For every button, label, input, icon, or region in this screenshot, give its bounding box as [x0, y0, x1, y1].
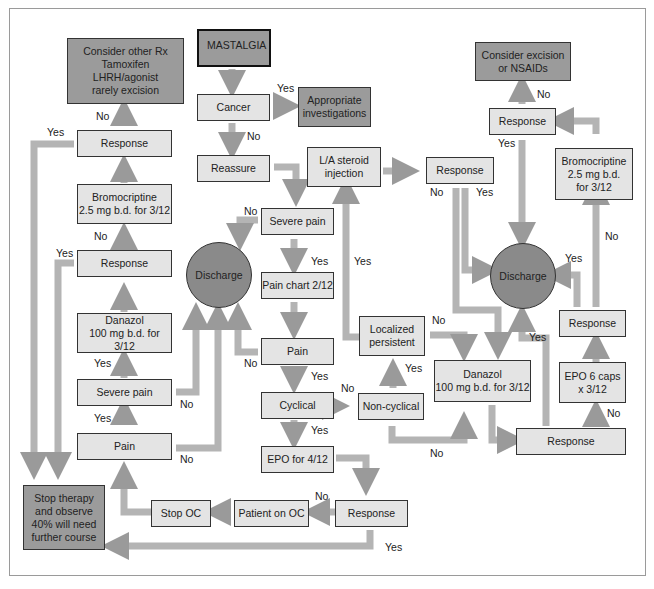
node-reassure: Reassure [197, 155, 270, 182]
label-steroid-yes: Yes [476, 186, 493, 198]
label-right-upper-no: No [537, 88, 550, 100]
label-left-response-yes: Yes [56, 247, 73, 259]
node-patient-on-oc: Patient on OC [234, 500, 309, 527]
node-response-right-mid: Response [559, 310, 626, 337]
label-right-lower-yes: Yes [529, 331, 546, 343]
node-mastalgia: MASTALGIA [197, 29, 271, 67]
label-noncyclical-yes: Yes [405, 362, 422, 374]
node-pain-left: Pain [77, 433, 172, 460]
label-left-upper-yes: Yes [47, 126, 64, 138]
label-severe-center-no: No [244, 205, 257, 217]
node-epo-6-caps: EPO 6 caps x 3/12 [559, 362, 626, 403]
node-cancer: Cancer [197, 94, 270, 121]
node-localized-persistent: Localized persistent [359, 316, 425, 356]
node-pain-chart: Pain chart 2/12 [261, 272, 334, 299]
node-stop-therapy: Stop therapy and observe 40% will need f… [23, 485, 105, 550]
label-left-response-no: No [94, 230, 107, 242]
label-noncyclical-no: No [430, 447, 443, 459]
label-left-upper-no: No [96, 110, 109, 122]
node-consider-other-rx: Consider other Rx Tamoxifen LHRH/agonist… [67, 38, 184, 104]
label-left-severe-yes: Yes [94, 357, 111, 369]
node-bromocriptine-left: Bromocriptine 2.5 mg b.d. for 3/12 [77, 184, 172, 224]
node-response-left-lower: Response [77, 250, 172, 277]
label-pain-center-yes: Yes [311, 370, 328, 382]
label-severe-center-yes: Yes [311, 255, 328, 267]
node-danazol-left: Danazol 100 mg b.d. for 3/12 [77, 313, 172, 353]
label-localized-yes: Yes [354, 255, 371, 267]
node-cyclical: Cyclical [261, 392, 334, 419]
node-severe-pain-center: Severe pain [261, 208, 334, 235]
label-right-mid-yes: Yes [565, 252, 582, 264]
label-epo-yes: Yes [385, 541, 402, 553]
node-response-right-lower: Response [516, 428, 626, 455]
node-stop-oc: Stop OC [151, 500, 211, 527]
label-right-mid-no: No [605, 230, 618, 242]
node-discharge-left: Discharge [186, 242, 252, 308]
node-discharge-right: Discharge [490, 243, 556, 309]
node-response-epo: Response [335, 500, 408, 527]
label-steroid-no: No [430, 186, 443, 198]
node-appropriate-investigations: Appropriate investigations [298, 87, 371, 127]
label-right-lower-no: No [607, 407, 620, 419]
label-left-severe-no: No [180, 398, 193, 410]
node-non-cyclical: Non-cyclical [358, 393, 424, 420]
node-bromocriptine-right: Bromocriptine 2.5 mg b.d. for 3/12 [555, 148, 633, 200]
label-left-pain-no: No [180, 453, 193, 465]
label-cancer-yes: Yes [277, 82, 294, 94]
label-cyclical-yes: Yes [311, 424, 328, 436]
label-cancer-no: No [247, 130, 260, 142]
node-pain-center: Pain [261, 338, 334, 365]
node-response-right-upper: Response [489, 108, 556, 135]
label-epo-no: No [315, 490, 328, 502]
label-left-pain-yes: Yes [94, 412, 111, 424]
node-danazol-right: Danazol 100 mg b.d. for 3/12 [434, 360, 531, 402]
node-response-left-upper: Response [77, 130, 172, 157]
label-right-upper-yes: Yes [498, 137, 515, 149]
node-consider-excision: Consider excision or NSAIDs [475, 42, 571, 81]
node-la-steroid: L/A steroid injection [307, 147, 381, 187]
label-localized-no: No [432, 314, 445, 326]
node-response-steroid: Response [426, 157, 494, 184]
node-epo-4-12: EPO for 4/12 [261, 446, 334, 473]
node-severe-pain-left: Severe pain [77, 379, 172, 406]
label-pain-center-no: No [244, 357, 257, 369]
label-cyclical-no: No [341, 382, 354, 394]
